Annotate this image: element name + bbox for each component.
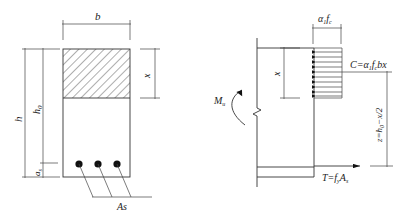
lever-arm-label: z=h0−x/2 [374, 107, 385, 143]
force-diagram: α1fc x C=α1fcbx z=h0−x/2 T=fyAs Mu [213, 13, 393, 187]
flexural-member-diagram: b As x h [0, 0, 401, 215]
stress-dimension: α1fc [312, 13, 342, 44]
moment-arrow [232, 90, 245, 125]
force-x-label: x [271, 71, 282, 77]
compression-depth-dimension: x [140, 48, 160, 99]
beam-break-line [253, 38, 261, 187]
compression-zone-hatch [63, 49, 130, 98]
lever-arm-dimension: z=h0−x/2 [374, 71, 393, 167]
rebar-leaders [79, 164, 152, 197]
cover-label: as [32, 169, 43, 177]
stress-label: α1fc [318, 13, 332, 25]
stress-block [314, 48, 342, 98]
effective-depth-label: h0 [31, 105, 44, 114]
height-label: h [12, 116, 24, 122]
steel-area-label: As [116, 201, 127, 212]
cross-section: b As x h [12, 10, 160, 212]
compression-depth-label: x [141, 73, 152, 79]
moment-label: Mu [213, 95, 225, 107]
compression-force-label: C=α1fcbx [350, 59, 387, 71]
effective-depth-dimension: h0 [31, 48, 58, 178]
tension-force-label: T=fyAs [322, 172, 349, 184]
width-label: b [95, 10, 101, 22]
force-compression-depth-dimension: x [271, 47, 300, 99]
width-dimension: b [62, 10, 131, 40]
